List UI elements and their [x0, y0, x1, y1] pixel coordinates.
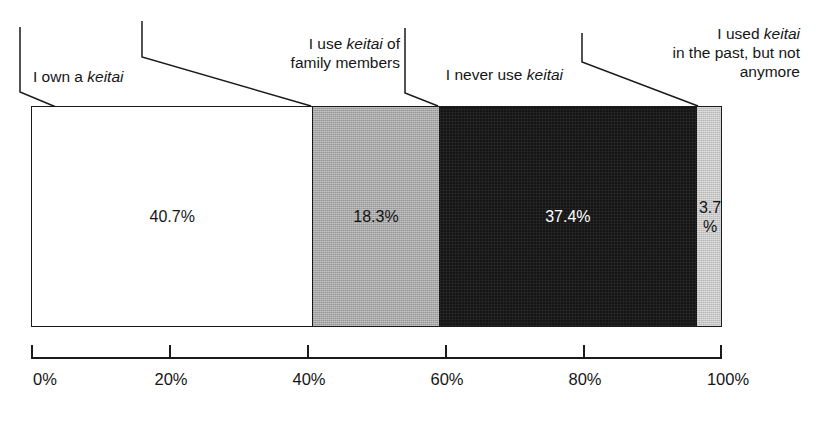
callout-line-1: I never use keitai [300, 65, 563, 84]
callout-text-pre: I never use [446, 66, 527, 83]
bar-segment-own-keitai[interactable]: 40.7% [32, 107, 312, 326]
callout-label-used-in-past: I used keitai in the past, but not anymo… [560, 24, 800, 81]
x-axis [31, 357, 722, 359]
axis-tick-100 [720, 345, 722, 359]
stacked-bar: 40.7% 18.3% 37.4% 3.7 % [31, 106, 722, 327]
bar-segment-value-line-2: % [703, 218, 717, 235]
bar-segment-never-use-keitai[interactable]: 37.4% [439, 107, 697, 326]
axis-tick-label-60: 60% [430, 370, 463, 389]
bar-segment-use-family-keitai[interactable]: 18.3% [312, 107, 438, 326]
callout-text-italic: keitai [347, 35, 383, 52]
axis-tick-80 [583, 345, 585, 359]
axis-tick-40 [307, 345, 309, 359]
callout-text-pre: I use [309, 35, 347, 52]
axis-tick-0 [31, 345, 33, 359]
callout-line-1: I used keitai [560, 24, 800, 43]
callout-line-1: I use keitai of [140, 34, 400, 53]
callout-line-3: anymore [560, 62, 800, 81]
stacked-bar-chart: I own a keitai I use keitai of family me… [0, 0, 816, 426]
bar-segment-value-use-family-keitai: 18.3% [353, 207, 398, 226]
axis-tick-label-0: 0% [33, 370, 57, 389]
bar-segment-value-never-use-keitai: 37.4% [545, 207, 590, 226]
callout-label-never-use-keitai: I never use keitai [300, 65, 563, 84]
axis-tick-20 [169, 345, 171, 359]
axis-tick-label-40: 40% [292, 370, 325, 389]
axis-tick-label-100: 100% [707, 370, 749, 389]
axis-tick-label-80: 80% [568, 370, 601, 389]
callout-text-pre: I used [717, 25, 764, 42]
bar-segment-used-in-past[interactable]: 3.7 % [696, 107, 721, 326]
callout-text-post: of [383, 35, 400, 52]
callout-line-1: I own a keitai [33, 67, 123, 86]
callout-text-italic: keitai [764, 25, 800, 42]
bar-segment-value-line-1: 3.7 [699, 199, 721, 216]
callout-label-own-keitai: I own a keitai [33, 67, 123, 86]
callout-line-2: in the past, but not [560, 43, 800, 62]
callout-text-italic: keitai [87, 68, 123, 85]
callout-text-italic: keitai [527, 66, 563, 83]
axis-tick-label-20: 20% [154, 370, 187, 389]
bar-segment-value-used-in-past: 3.7 % [699, 198, 721, 236]
callout-text-pre: I own a [33, 68, 87, 85]
bar-segment-value-own-keitai: 40.7% [150, 207, 195, 226]
axis-tick-60 [445, 345, 447, 359]
